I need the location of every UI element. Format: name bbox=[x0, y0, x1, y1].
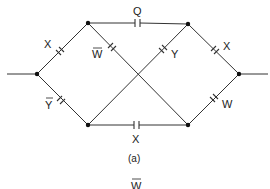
label-x-bottom: X bbox=[132, 133, 140, 145]
contact-x-bottom bbox=[88, 121, 188, 129]
contact-q-top bbox=[88, 19, 188, 27]
node-output bbox=[237, 72, 241, 76]
node-top-right bbox=[186, 22, 190, 26]
label-ybar-bottom-left: Y bbox=[45, 99, 53, 111]
label-x-top-left: X bbox=[44, 38, 52, 50]
node-bottom-left bbox=[86, 123, 90, 127]
figure-caption: (a) bbox=[128, 153, 140, 164]
relay-contact-network: X Y Q W Y X X bbox=[0, 0, 270, 189]
contact-x-top-right bbox=[188, 24, 239, 74]
label-x-top-right: X bbox=[223, 40, 231, 52]
label-w-bottom-right: W bbox=[222, 98, 233, 110]
node-input bbox=[35, 72, 39, 76]
bottom-label: W bbox=[131, 180, 142, 189]
label-q-top: Q bbox=[133, 5, 142, 17]
label-y-diag: Y bbox=[171, 48, 179, 60]
label-wbar-diag: W bbox=[92, 48, 103, 60]
node-bottom-right bbox=[186, 123, 190, 127]
node-top-left bbox=[86, 21, 90, 25]
